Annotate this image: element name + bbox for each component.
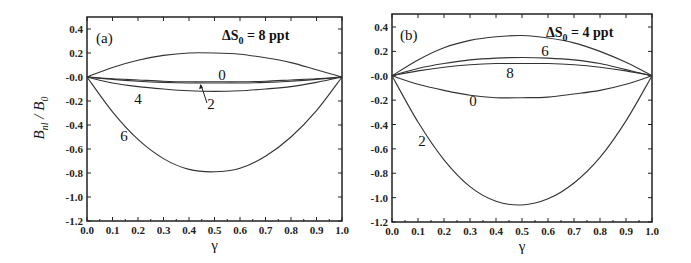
x-tick-label: 0.4 — [182, 224, 196, 236]
y-tick-label: -0.8 — [371, 167, 389, 179]
plot-frame — [87, 17, 342, 221]
x-tick-label: 0.2 — [437, 225, 451, 237]
x-tick-label: 1.0 — [645, 225, 659, 237]
y-tick-label: -0.6 — [66, 143, 84, 155]
x-tick-label: 0.8 — [284, 224, 298, 236]
x-tick-label: 0.7 — [567, 225, 581, 237]
y-tick-label: -0.6 — [371, 143, 389, 155]
svg-text:Bnl / B0: Bnl / B0 — [31, 97, 50, 140]
x-tick-label: 0.3 — [463, 225, 477, 237]
curve-6 — [392, 57, 652, 75]
y-tick-label: -1.2 — [371, 216, 389, 228]
y-tick-label: -0.0 — [66, 71, 84, 83]
panel-label: (a) — [96, 30, 113, 47]
y-tick-label: -0.8 — [66, 167, 84, 179]
y-tick-label: -0.4 — [66, 119, 84, 131]
curve-label: 0 — [218, 67, 226, 83]
x-tick-label: 0.9 — [619, 225, 633, 237]
x-tick-label: 0.1 — [411, 225, 425, 237]
x-tick-label: 0.5 — [208, 224, 222, 236]
y-tick-label: -1.0 — [66, 191, 84, 203]
y-tick-label: -0.4 — [371, 119, 389, 131]
x-tick-label: 0.6 — [541, 225, 555, 237]
curve-label: 2 — [418, 133, 426, 149]
figure: Bnl / B0 0.00.10.20.30.40.50.60.70.80.91… — [0, 0, 691, 263]
y-tick-label: -0.2 — [66, 95, 84, 107]
x-tick-label: 0.4 — [489, 225, 503, 237]
curve-label: 6 — [120, 128, 128, 144]
y-tick-label: 0.4 — [374, 21, 388, 33]
curve-0 — [87, 77, 342, 82]
panel-label: (b) — [400, 27, 418, 44]
y-tick-label: -1.2 — [66, 215, 84, 227]
y-tick-label: 0.2 — [374, 45, 388, 57]
x-tick-label: 0.8 — [593, 225, 607, 237]
curve-label: 6 — [541, 43, 549, 59]
curve-0 — [392, 76, 652, 98]
curve-label: 0 — [469, 93, 477, 109]
y-tick-label: 0.2 — [69, 47, 83, 59]
curve-top — [392, 35, 652, 75]
x-tick-label: 0.5 — [515, 225, 529, 237]
y-tick-label: -0.2 — [371, 94, 389, 106]
x-tick-label: 0.9 — [310, 224, 324, 236]
y-tick-label: 0.4 — [69, 23, 83, 35]
x-tick-label: 0.2 — [131, 224, 145, 236]
curve-label: 4 — [134, 91, 142, 107]
plot-frame — [392, 14, 652, 222]
y-tick-label: -1.0 — [371, 192, 389, 204]
salinity-annotation: ΔS0 = 8 ppt — [222, 28, 290, 46]
panel-a: 0.00.10.20.30.40.50.60.70.80.91.00.40.2-… — [66, 17, 350, 253]
x-tick-label: 0.1 — [106, 224, 120, 236]
x-tick-label: 1.0 — [335, 224, 349, 236]
curve-label: 2 — [207, 96, 215, 112]
y-tick-label: -0.0 — [371, 70, 389, 82]
salinity-annotation: ΔS0 = 4 ppt — [546, 25, 614, 43]
curve-label: 8 — [506, 65, 514, 81]
panel-b: 0.00.10.20.30.40.50.60.70.80.91.00.40.2-… — [371, 14, 660, 254]
x-tick-label: 0.6 — [233, 224, 247, 236]
curve-2 — [392, 76, 652, 205]
x-tick-label: 0.7 — [259, 224, 273, 236]
x-axis-title: γ — [210, 237, 218, 253]
x-axis-title: γ — [518, 238, 526, 254]
curve-top — [87, 53, 342, 77]
y-axis-title: Bnl / B0 — [31, 97, 50, 140]
x-tick-label: 0.3 — [157, 224, 171, 236]
